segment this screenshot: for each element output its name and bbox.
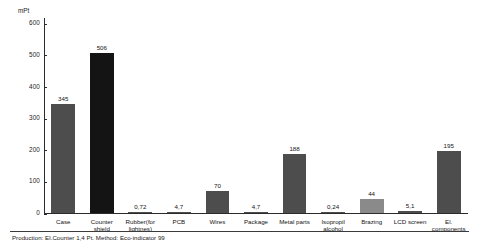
y-axis-tick-mark <box>44 214 47 215</box>
bar[interactable]: 44 <box>360 17 384 213</box>
bar[interactable]: 506 <box>90 17 114 213</box>
bar-rect[interactable] <box>167 212 191 213</box>
y-axis-tick-label: 500 <box>10 51 44 61</box>
bar-rect[interactable] <box>206 191 230 213</box>
bar[interactable]: 70 <box>206 17 230 213</box>
footer-divider <box>10 231 469 232</box>
x-axis-category-label: Case <box>44 218 83 225</box>
bar[interactable]: 0,24 <box>321 17 345 213</box>
x-axis-category-label-line: Wires <box>198 218 237 225</box>
y-axis-tick-mark <box>44 55 47 56</box>
x-axis-category-label: Brazing <box>352 218 391 225</box>
y-axis-tick-label: 300 <box>10 114 44 124</box>
y-axis-tick-mark <box>44 87 47 88</box>
y-axis-tick-label: 600 <box>10 19 44 29</box>
bar-rect[interactable] <box>51 104 75 213</box>
bar[interactable]: 0,72 <box>128 17 152 213</box>
bar-value-label: 0,24 <box>307 203 359 210</box>
bar-value-label: 4,7 <box>153 203 205 210</box>
chart-caption: Production: El.Counter 1,4 Pt. Method: E… <box>12 234 165 241</box>
bar-value-label: 195 <box>423 142 475 149</box>
bar-rect[interactable] <box>437 151 461 213</box>
y-axis-tick-mark <box>44 150 47 151</box>
bar[interactable]: 5,1 <box>398 17 422 213</box>
x-axis-category-label-line: Case <box>44 218 83 225</box>
bar-rect[interactable] <box>360 199 384 213</box>
y-axis-tick-mark <box>44 24 47 25</box>
x-axis-category-label-line: Package <box>237 218 276 225</box>
bar-value-label: 188 <box>269 145 321 152</box>
y-axis-tick-label: 0 <box>10 209 44 219</box>
x-axis-category-label: Package <box>237 218 276 225</box>
x-axis-category-label: PCB <box>160 218 199 225</box>
x-axis-category-label-line: Brazing <box>352 218 391 225</box>
bar[interactable]: 345 <box>51 17 75 213</box>
x-axis-category-label: Metal parts <box>275 218 314 225</box>
x-axis-line <box>44 213 468 214</box>
bar[interactable]: 188 <box>283 17 307 213</box>
bar[interactable]: 4,7 <box>244 17 268 213</box>
bar-value-label: 70 <box>192 182 244 189</box>
x-axis-category-label-line: PCB <box>160 218 199 225</box>
chart-page: mPt 0100200300400500600 3455060,724,7704… <box>0 0 479 247</box>
bar-rect[interactable] <box>90 53 114 213</box>
x-axis-category-label-line: Metal parts <box>275 218 314 225</box>
y-axis-tick-label: 200 <box>10 146 44 156</box>
bar-value-label: 506 <box>76 44 128 51</box>
y-axis-tick-label: 100 <box>10 177 44 187</box>
x-axis-category-label-line: Isopropil <box>314 218 353 225</box>
bar-rect[interactable] <box>283 154 307 213</box>
x-axis-category-label-line: Rubber(for <box>121 218 160 225</box>
y-axis-line <box>44 18 45 214</box>
x-axis-category-label: LCD screen <box>391 218 430 225</box>
bar-value-label: 44 <box>346 190 398 197</box>
bar-value-label: 345 <box>37 95 89 102</box>
x-axis-category-label-line: El. <box>429 218 468 225</box>
plot-area: 0100200300400500600 3455060,724,7704,718… <box>44 18 468 214</box>
x-axis-category-label-line: Counter <box>83 218 122 225</box>
bar-rect[interactable] <box>244 212 268 213</box>
bar[interactable]: 195 <box>437 17 461 213</box>
y-axis-unit-label: mPt <box>18 7 29 14</box>
bar-rect[interactable] <box>128 212 152 213</box>
x-axis-category-label: Wires <box>198 218 237 225</box>
x-axis-category-label-line: LCD screen <box>391 218 430 225</box>
bar-value-label: 4,7 <box>230 203 282 210</box>
bar-rect[interactable] <box>398 211 422 213</box>
y-axis-tick-label: 400 <box>10 83 44 93</box>
bar-value-label: 5,1 <box>384 202 436 209</box>
y-axis-tick-mark <box>44 119 47 120</box>
y-axis-tick-mark <box>44 182 47 183</box>
bar-rect[interactable] <box>321 212 345 213</box>
bar[interactable]: 4,7 <box>167 17 191 213</box>
